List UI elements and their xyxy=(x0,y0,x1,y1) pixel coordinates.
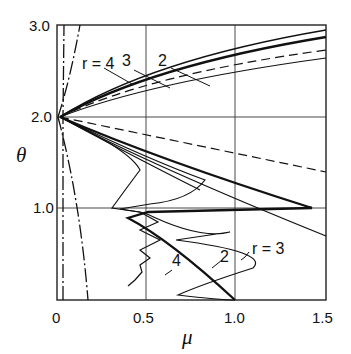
x-tick-0.5: 0.5 xyxy=(133,309,154,326)
dashed-descending-line xyxy=(60,117,326,172)
upper-fan xyxy=(60,30,326,117)
y-tick-3.0: 3.0 xyxy=(29,17,50,34)
y-axis-label: θ xyxy=(16,143,26,167)
label-2-lower: 2 xyxy=(220,248,229,265)
annotation-leaders xyxy=(104,68,249,275)
y-tick-2.0: 2.0 xyxy=(31,108,52,125)
label-2-upper: 2 xyxy=(158,52,167,69)
label-r4-upper: r = 4 xyxy=(82,55,115,72)
label-r3-lower: r = 3 xyxy=(252,240,285,257)
x-tick-1.5: 1.5 xyxy=(312,309,333,326)
chart-svg: 0 0.5 1.0 1.5 1.0 2.0 3.0 μ θ xyxy=(0,0,351,354)
chart-container: 0 0.5 1.0 1.5 1.0 2.0 3.0 μ θ xyxy=(0,0,351,354)
x-tick-1.0: 1.0 xyxy=(224,309,245,326)
y-tick-1.0: 1.0 xyxy=(33,199,54,216)
lower-curves xyxy=(60,117,326,300)
x-tick-0: 0 xyxy=(52,309,60,326)
label-3-upper: 3 xyxy=(122,52,131,69)
x-axis-label: μ xyxy=(181,325,193,349)
label-4-lower: 4 xyxy=(172,252,181,269)
